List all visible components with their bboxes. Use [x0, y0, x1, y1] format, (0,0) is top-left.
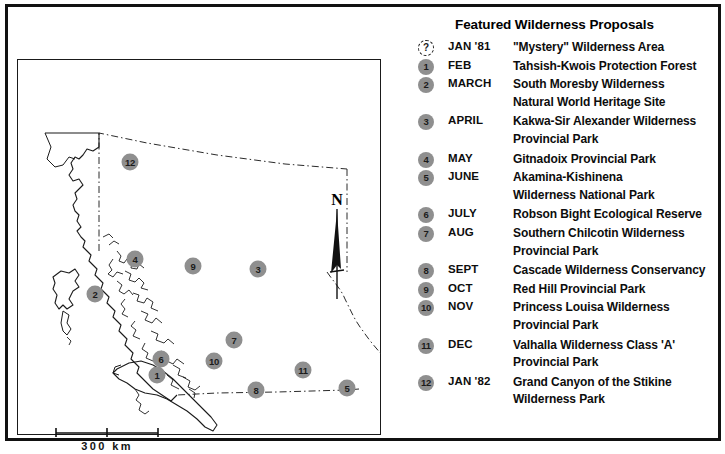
- legend-month: JAN '82: [448, 375, 490, 387]
- boundary-south: [177, 389, 359, 395]
- legend-description: Grand Canyon of the Stikine: [513, 375, 672, 389]
- legend-description: Wilderness Park: [513, 392, 605, 406]
- map-marker-3[interactable]: 3: [250, 261, 267, 278]
- legend-description: Provincial Park: [513, 355, 598, 369]
- legend-month: SEPT: [448, 263, 478, 275]
- legend-marker-11: 11: [418, 338, 434, 354]
- legend-description: Natural World Heritage Site: [513, 95, 665, 109]
- legend-panel: Featured Wilderness Proposals ?JAN '81"M…: [406, 13, 721, 438]
- map-marker-2[interactable]: 2: [87, 286, 104, 303]
- legend-description: Gitnadoix Provincial Park: [513, 152, 656, 166]
- legend-description: Provincial Park: [513, 132, 598, 146]
- legend-marker-9: 9: [418, 282, 434, 298]
- legend-description: Cascade Wilderness Conservancy: [513, 263, 705, 277]
- legend-list: ?JAN '81"Mystery" Wilderness Area1FEBTah…: [406, 39, 721, 411]
- legend-marker-3: 3: [418, 114, 434, 130]
- legend-month: DEC: [448, 338, 473, 350]
- map-panel: 124932761011185 N 300 km: [17, 59, 381, 435]
- legend-description: Red Hill Provincial Park: [513, 282, 645, 296]
- legend-marker-7: 7: [418, 226, 434, 242]
- haida-gwaii: [53, 269, 79, 309]
- legend-marker-2: 2: [418, 77, 434, 93]
- legend-description-continued: Provincial Park: [406, 355, 721, 374]
- legend-month: JAN '81: [448, 40, 490, 52]
- legend-month: APRIL: [448, 114, 483, 126]
- legend-description-continued: Provincial Park: [406, 132, 721, 151]
- legend-row-1[interactable]: 1FEBTahsish-Kwois Protection Forest: [406, 58, 721, 77]
- legend-description: Provincial Park: [513, 244, 598, 258]
- legend-marker-1: 1: [418, 59, 434, 75]
- map-marker-5[interactable]: 5: [339, 380, 356, 397]
- legend-title: Featured Wilderness Proposals: [455, 17, 654, 32]
- map-marker-6[interactable]: 6: [153, 351, 170, 368]
- legend-month: OCT: [448, 282, 473, 294]
- legend-row-6[interactable]: 6JULYRobson Bight Ecological Reserve: [406, 206, 721, 225]
- legend-description: Robson Bight Ecological Reserve: [513, 207, 702, 221]
- legend-description: Princess Louisa Wilderness: [513, 300, 670, 314]
- legend-month: FEB: [448, 59, 471, 71]
- legend-marker-6: 6: [418, 207, 434, 223]
- legend-description: South Moresby Wilderness: [513, 77, 665, 91]
- legend-description: "Mystery" Wilderness Area: [513, 40, 664, 54]
- mystery-marker-icon: ?: [418, 40, 434, 56]
- legend-row-4[interactable]: 4MAYGitnadoix Provincial Park: [406, 151, 721, 170]
- legend-row-?[interactable]: ?JAN '81"Mystery" Wilderness Area: [406, 39, 721, 58]
- legend-marker-12: 12: [418, 375, 434, 391]
- kunghit-island: [67, 337, 71, 345]
- boundary-north: [99, 133, 347, 251]
- map-marker-12[interactable]: 12: [122, 154, 139, 171]
- map-marker-4[interactable]: 4: [127, 251, 144, 268]
- north-arrow: N: [317, 191, 357, 301]
- legend-description: Provincial Park: [513, 318, 598, 332]
- legend-month: JUNE: [448, 170, 479, 182]
- legend-row-5[interactable]: 5JUNEAkamina-Kishinena: [406, 169, 721, 188]
- map-marker-9[interactable]: 9: [185, 258, 202, 275]
- map-marker-11[interactable]: 11: [295, 362, 312, 379]
- legend-description: Akamina-Kishinena: [513, 170, 623, 184]
- legend-description: Wilderness National Park: [513, 188, 655, 202]
- legend-marker-4: 4: [418, 152, 434, 168]
- scale-bar-glyph: [54, 426, 160, 440]
- map-marker-1[interactable]: 1: [149, 367, 166, 384]
- legend-row-10[interactable]: 10NOVPrincess Louisa Wilderness: [406, 299, 721, 318]
- legend-description-continued: Provincial Park: [406, 318, 721, 337]
- legend-month: JULY: [448, 207, 477, 219]
- legend-description: Valhalla Wilderness Class 'A': [513, 338, 675, 352]
- legend-month: NOV: [448, 300, 473, 312]
- island-interior-line: [135, 389, 149, 414]
- moresby-island: [61, 311, 71, 335]
- scale-bar: 300 km: [54, 426, 160, 454]
- legend-marker-5: 5: [418, 170, 434, 186]
- legend-description-continued: Wilderness National Park: [406, 188, 721, 207]
- quatsino-inlet: [113, 365, 121, 375]
- legend-month: MAY: [448, 152, 473, 164]
- legend-row-2[interactable]: 2MARCHSouth Moresby Wilderness: [406, 76, 721, 95]
- legend-description: Southern Chilcotin Wilderness: [513, 226, 685, 240]
- map-marker-7[interactable]: 7: [226, 332, 243, 349]
- legend-row-12[interactable]: 12JAN '82Grand Canyon of the Stikine: [406, 374, 721, 393]
- poster-frame: 124932761011185 N 300 km Featured Wilder…: [5, 4, 721, 441]
- legend-description: Tahsish-Kwois Protection Forest: [513, 59, 696, 73]
- legend-description-continued: Wilderness Park: [406, 392, 721, 411]
- legend-description: Kakwa-Sir Alexander Wilderness: [513, 114, 696, 128]
- legend-row-9[interactable]: 9OCTRed Hill Provincial Park: [406, 281, 721, 300]
- legend-row-7[interactable]: 7AUGSouthern Chilcotin Wilderness: [406, 225, 721, 244]
- map-marker-10[interactable]: 10: [206, 353, 223, 370]
- legend-row-8[interactable]: 8SEPTCascade Wilderness Conservancy: [406, 262, 721, 281]
- legend-marker-10: 10: [418, 300, 434, 316]
- legend-row-3[interactable]: 3APRILKakwa-Sir Alexander Wilderness: [406, 113, 721, 132]
- legend-month: AUG: [448, 226, 474, 238]
- legend-row-11[interactable]: 11DECValhalla Wilderness Class 'A': [406, 337, 721, 356]
- scale-bar-label: 300 km: [54, 440, 160, 452]
- coastline-panhandle: [45, 133, 75, 167]
- legend-description-continued: Natural World Heritage Site: [406, 95, 721, 114]
- legend-month: MARCH: [448, 77, 491, 89]
- north-label: N: [317, 191, 357, 209]
- legend-description-continued: Provincial Park: [406, 244, 721, 263]
- map-marker-8[interactable]: 8: [248, 382, 265, 399]
- legend-marker-8: 8: [418, 263, 434, 279]
